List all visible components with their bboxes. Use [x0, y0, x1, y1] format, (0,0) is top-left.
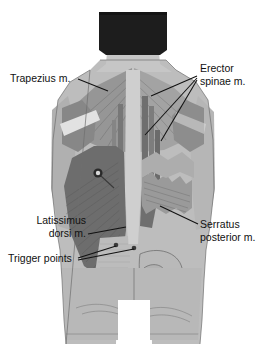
label-serratus-posterior-line1: Serratus: [200, 218, 240, 230]
label-latissimus-dorsi-line2: dorsi m.: [49, 227, 86, 239]
label-trapezius: Trapezius m.: [10, 72, 70, 84]
spine-column: [125, 70, 141, 244]
anatomy-illustration: Trapezius m. Erector spinae m. Latissimu…: [0, 0, 265, 364]
hair-top-edge: [99, 12, 167, 15]
label-erector-spinae-line2: spinae m.: [200, 75, 246, 87]
label-serratus-posterior-line2: posterior m.: [200, 231, 255, 243]
hair: [99, 12, 167, 55]
label-trigger-points: Trigger points: [8, 252, 72, 264]
anatomy-figure: Trapezius m. Erector spinae m. Latissimu…: [0, 0, 265, 364]
label-erector-spinae-line1: Erector: [200, 62, 234, 74]
label-latissimus-dorsi-line1: Latissimus: [36, 214, 86, 226]
